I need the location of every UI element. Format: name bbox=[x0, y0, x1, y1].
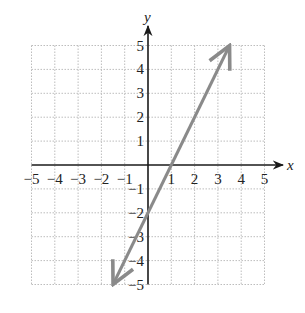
y-axis-label: y bbox=[142, 9, 151, 25]
y-tick-label: −5 bbox=[128, 277, 144, 293]
x-tick-label: −4 bbox=[47, 171, 63, 187]
x-tick-label: 5 bbox=[261, 171, 269, 187]
x-tick-label: 2 bbox=[191, 171, 199, 187]
y-tick-label: −2 bbox=[128, 205, 144, 221]
x-tick-label: −2 bbox=[93, 171, 109, 187]
x-tick-label: −5 bbox=[24, 171, 40, 187]
y-tick-label: 1 bbox=[137, 133, 145, 149]
x-axis-label: x bbox=[286, 157, 294, 173]
axes bbox=[32, 26, 284, 285]
x-tick-label: 4 bbox=[237, 171, 245, 187]
y-tick-label: 4 bbox=[137, 61, 145, 77]
y-tick-label: 3 bbox=[137, 85, 145, 101]
y-tick-label: 2 bbox=[137, 109, 145, 125]
y-tick-label: −4 bbox=[128, 253, 144, 269]
coordinate-plane: −5−4−3−2−11234554321−1−2−3−4−5 x y bbox=[0, 0, 305, 313]
y-tick-label: −1 bbox=[128, 181, 144, 197]
x-tick-label: −3 bbox=[70, 171, 86, 187]
x-tick-label: 3 bbox=[214, 171, 222, 187]
y-tick-label: 5 bbox=[137, 38, 145, 54]
